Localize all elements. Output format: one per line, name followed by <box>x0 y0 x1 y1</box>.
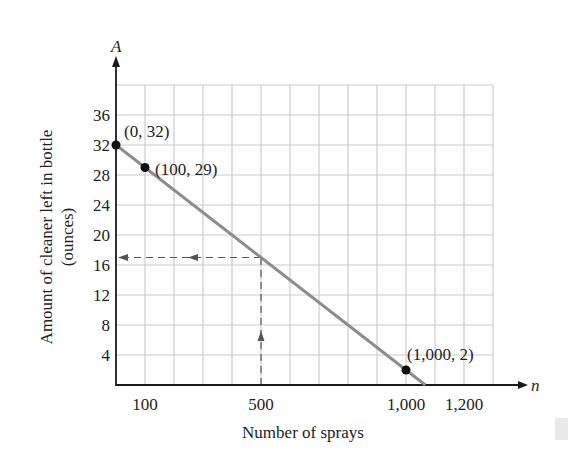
y-tick-label: 12 <box>93 286 110 305</box>
x-axis-arrow-icon <box>518 381 528 389</box>
data-point-label: (0, 32) <box>124 122 169 141</box>
x-tick-labels: 1005001,0001,200 <box>132 395 483 414</box>
y-tick-label: 32 <box>93 136 110 155</box>
arrow-up-icon <box>258 331 265 341</box>
y-axis-title-line2: (ounces) <box>58 208 77 267</box>
y-tick-label: 28 <box>93 166 110 185</box>
y-tick-label: 16 <box>93 256 110 275</box>
y-axis-variable: A <box>110 37 122 56</box>
x-axis-variable: n <box>531 376 540 395</box>
data-points: (0, 32)(100, 29)(1,000, 2) <box>112 122 474 375</box>
grid <box>116 85 493 385</box>
x-tick-label: 1,200 <box>445 395 483 414</box>
arrow-left-icon <box>188 254 198 261</box>
arrow-left-icon <box>118 254 128 261</box>
scan-artifact <box>555 418 568 440</box>
y-tick-label: 24 <box>93 196 111 215</box>
y-tick-label: 4 <box>102 346 111 365</box>
x-tick-label: 500 <box>248 395 274 414</box>
dashed-guides <box>116 254 265 385</box>
y-tick-label: 20 <box>93 226 110 245</box>
x-axis-title: Number of sprays <box>242 423 364 442</box>
y-axis-title: Amount of cleaner left in bottle (ounces… <box>37 130 77 345</box>
data-point-label: (1,000, 2) <box>407 345 474 364</box>
x-tick-label: 1,000 <box>387 395 425 414</box>
y-tick-label: 8 <box>102 316 111 335</box>
y-tick-label: 36 <box>93 106 110 125</box>
line-chart: n A (0, 32)(100, 29)(1,000, 2) 1005001,0… <box>0 0 568 463</box>
data-point <box>112 141 121 150</box>
x-tick-label: 100 <box>132 395 158 414</box>
data-point <box>402 366 411 375</box>
y-tick-labels: 4812162024283236 <box>93 106 111 365</box>
data-point <box>141 163 150 172</box>
y-axis-arrow-icon <box>112 56 120 67</box>
data-point-label: (100, 29) <box>155 160 217 179</box>
y-axis-title-line1: Amount of cleaner left in bottle <box>37 130 56 345</box>
